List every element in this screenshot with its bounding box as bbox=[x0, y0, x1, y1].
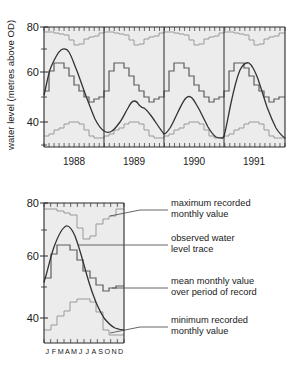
top-xtick-1989: 1989 bbox=[123, 156, 146, 167]
top-xtick-1988: 1988 bbox=[63, 156, 86, 167]
bottom-ytick-60: 60 bbox=[27, 250, 39, 262]
bottom-annual-cycle-svg: 80 60 40 bbox=[0, 188, 301, 374]
bottom-month-label-n-10: N bbox=[111, 347, 116, 356]
bottom-annual-cycle-panel: 80 60 40 bbox=[0, 188, 301, 374]
bottom-month-label-m-2: M bbox=[58, 347, 64, 356]
bottom-month-label-o-9: O bbox=[105, 347, 111, 356]
top-xtick-1991: 1991 bbox=[243, 156, 266, 167]
top-xtick-1990: 1990 bbox=[183, 156, 206, 167]
top-y-axis-label: water level (metres above OD) bbox=[5, 20, 16, 151]
bottom-ytick-40: 40 bbox=[27, 312, 39, 324]
bottom-month-label-d-11: D bbox=[118, 347, 123, 356]
top-ytick-40: 40 bbox=[27, 116, 39, 128]
annotation-observed-line1: observed water bbox=[171, 233, 235, 243]
annotation-observed-line2: level trace bbox=[171, 244, 213, 254]
annotation-mean-line1: mean monthly value bbox=[171, 276, 254, 286]
bottom-month-labels: JFMAMJJASOND bbox=[46, 347, 124, 356]
figure-root: water level (metres above OD) 80 60 40 bbox=[0, 0, 301, 374]
bottom-month-label-j-5: J bbox=[79, 347, 83, 356]
annotation-maximum-line1: maximum recorded bbox=[171, 198, 251, 208]
top-timeseries-panel: water level (metres above OD) 80 60 40 bbox=[0, 0, 301, 188]
bottom-month-label-j-0: J bbox=[46, 347, 50, 356]
bottom-month-label-j-6: J bbox=[86, 347, 90, 356]
bottom-month-label-m-4: M bbox=[71, 347, 77, 356]
annotation-minimum-line1: minimum recorded bbox=[171, 315, 248, 325]
top-timeseries-svg: water level (metres above OD) 80 60 40 bbox=[0, 0, 301, 188]
bottom-plot-background bbox=[44, 203, 124, 343]
top-ytick-80: 80 bbox=[27, 21, 39, 33]
top-ytick-60: 60 bbox=[27, 66, 39, 78]
bottom-month-label-f-1: F bbox=[52, 347, 57, 356]
bottom-ytick-80: 80 bbox=[27, 197, 39, 209]
bottom-month-label-a-7: A bbox=[92, 347, 97, 356]
bottom-month-label-a-3: A bbox=[65, 347, 70, 356]
annotation-mean-line2: over period of record bbox=[171, 287, 257, 297]
bottom-month-label-s-8: S bbox=[98, 347, 103, 356]
annotation-maximum-line2: monthly value bbox=[171, 209, 228, 219]
annotation-minimum-line2: monthly value bbox=[171, 326, 228, 336]
